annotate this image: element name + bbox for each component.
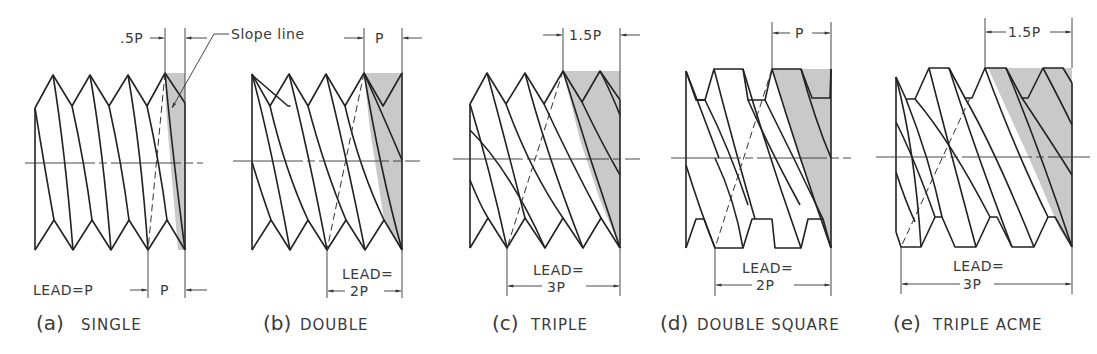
figure-a-single: .5P Slope line P LEAD=P (a) SINGLE xyxy=(25,26,305,335)
caption-label: DOUBLE xyxy=(300,316,368,334)
top-dimension-label: P xyxy=(375,30,384,46)
top-dimension-label: 1.5P xyxy=(569,27,602,43)
top-dimension-label: P xyxy=(795,25,804,41)
lead-value: 2P xyxy=(756,277,774,293)
thread-bottom-profile xyxy=(252,220,402,250)
slope-line xyxy=(715,69,772,248)
top-dimension-label: 1.5P xyxy=(1008,24,1041,40)
shaded-thread-region xyxy=(364,73,402,250)
bottom-dimension-label: P xyxy=(160,282,169,298)
figure-b-double: P LEAD= 2P (b) DOUBLE xyxy=(233,28,422,335)
lead-label: LEAD= xyxy=(533,262,584,278)
thread-diagram: .5P Slope line P LEAD=P (a) SINGLE xyxy=(0,0,1097,354)
lead-label: LEAD= xyxy=(342,266,393,282)
thread-bottom-profile xyxy=(686,219,831,248)
lead-value: 3P xyxy=(963,276,981,292)
caption-letter: (a) xyxy=(36,311,64,335)
caption-letter: (b) xyxy=(263,311,291,335)
caption-label: TRIPLE xyxy=(530,316,588,334)
caption-letter: (e) xyxy=(893,311,921,335)
caption-label: SINGLE xyxy=(81,316,142,334)
caption-label: TRIPLE ACME xyxy=(932,316,1043,334)
lead-value: 3P xyxy=(547,279,565,295)
slope-line xyxy=(901,98,970,247)
figure-e-triple-acme: 1.5P LEAD= 3P (e) TRIPLE ACME xyxy=(876,18,1090,335)
lead-label: LEAD=P xyxy=(33,282,93,298)
thread-bottom-profile xyxy=(896,217,1072,247)
caption-letter: (d) xyxy=(660,311,688,335)
lead-value: 2P xyxy=(350,283,368,299)
slope-line-callout: Slope line xyxy=(231,26,305,42)
thread-bottom-profile xyxy=(470,218,620,248)
figure-c-triple: 1.5P LEAD= 3P (c) TRIPLE xyxy=(453,27,640,335)
lead-label: LEAD= xyxy=(953,258,1004,274)
caption-letter: (c) xyxy=(492,311,519,335)
figure-d-double-square: P LEAD= 2P (d) DOUBLE SQUARE xyxy=(660,22,851,335)
lead-label: LEAD= xyxy=(742,260,793,276)
caption-label: DOUBLE SQUARE xyxy=(697,316,840,334)
slope-line xyxy=(507,71,563,248)
top-dimension-label: .5P xyxy=(120,30,143,46)
